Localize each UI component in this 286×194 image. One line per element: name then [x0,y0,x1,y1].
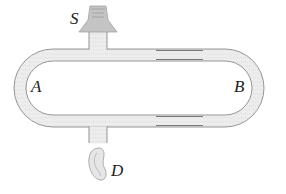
label-arm-b: B [234,78,244,95]
label-source-s: S [70,10,79,27]
ear-icon [89,148,106,180]
inlet-stem [89,30,107,50]
tube-loop [14,49,264,127]
outlet-stem [89,127,107,144]
label-detector-d: D [111,162,123,179]
speaker-icon [79,6,117,32]
quincke-tube-diagram [0,0,286,194]
label-arm-a: A [31,78,41,95]
